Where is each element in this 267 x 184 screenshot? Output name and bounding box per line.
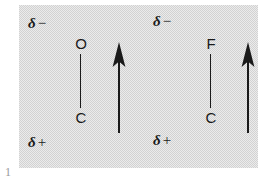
delta-symbol: δ [153,132,161,148]
minus-sign: − [36,15,46,31]
atom-label-oxygen: O [71,36,91,51]
delta-minus-label-right: δ− [153,14,171,29]
bond-line-co [80,54,81,108]
atom-label-carbon-left: C [71,110,91,125]
dipole-arrow-right [238,41,258,137]
delta-symbol: δ [28,15,36,31]
delta-symbol: δ [153,13,161,29]
bond-dipole-figure: δ− O C δ+ δ− F C [0,0,267,184]
dipole-arrow-left [109,41,129,137]
figure-panel: δ− O C δ+ δ− F C [19,5,258,168]
bond-line-cf [210,54,211,108]
page-numeral: 1 [5,166,11,178]
delta-plus-label-left: δ+ [28,135,46,150]
plus-sign: + [36,134,46,150]
atom-label-fluorine: F [201,36,221,51]
delta-plus-label-right: δ+ [153,133,171,148]
atom-label-carbon-right: C [201,110,221,125]
minus-sign: − [161,13,171,29]
delta-symbol: δ [28,134,36,150]
delta-minus-label-left: δ− [28,16,46,31]
plus-sign: + [161,132,171,148]
